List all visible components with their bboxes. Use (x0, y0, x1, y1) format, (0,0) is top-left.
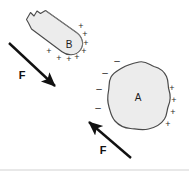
charge-plus-blob: + (169, 108, 177, 117)
charge-plus-bar: + (65, 55, 73, 64)
charge-plus-bar: + (45, 47, 53, 56)
charge-plus-bar: + (80, 47, 88, 56)
charge-plus-blob: + (170, 96, 178, 105)
blob-label-a: A (131, 92, 145, 103)
charge-minus-blob: – (95, 84, 103, 93)
bottom-divider (0, 169, 189, 171)
charge-plus-bar: + (73, 53, 81, 62)
charge-minus-blob: – (101, 68, 109, 77)
charge-plus-blob: + (164, 120, 172, 129)
force-label-upper: F (15, 69, 29, 81)
charge-plus-bar: + (55, 54, 63, 63)
physics-diagram: B A F F + + + + + + + + – – – – + + + + (0, 0, 189, 171)
charge-plus-blob: + (168, 84, 176, 93)
charge-minus-blob: – (94, 103, 102, 112)
charge-minus-blob: – (113, 56, 121, 65)
bar-label-b: B (62, 39, 76, 50)
force-label-lower: F (96, 144, 110, 156)
